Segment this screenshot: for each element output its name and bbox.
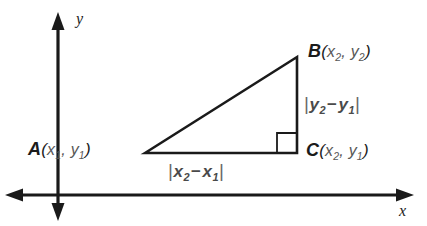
point-b-sub-x: 2	[335, 51, 341, 63]
y-axis-label: y	[76, 11, 83, 27]
y-axis-down-arrowhead-icon	[52, 203, 65, 221]
point-c-var-y: y	[349, 142, 357, 159]
point-a-sub-x: 1	[55, 149, 61, 161]
x-axis-label: x	[399, 203, 406, 219]
point-b-letter: B	[308, 41, 321, 61]
vertical-leg-length-label: |y2−y1|	[304, 94, 361, 113]
vertical-leg-var-2: y	[338, 95, 348, 114]
point-b-comma: ,	[341, 43, 350, 60]
point-a-close-paren: )	[85, 140, 91, 159]
horizontal-leg-length-label: |x2−x1|	[168, 161, 225, 180]
y-axis-up-arrowhead-icon	[52, 12, 65, 30]
vertical-leg-var-1: y	[309, 95, 319, 114]
point-label-a: A(x1, y1)	[28, 140, 91, 158]
right-angle-marker-icon	[277, 133, 297, 153]
point-c-close-paren: )	[363, 141, 369, 160]
point-label-b: B(x2, y2)	[308, 42, 371, 60]
vertical-leg-minus: −	[326, 95, 338, 114]
distance-formula-diagram: A(x1, y1) B(x2, y2) C(x2, y1) |y2−y1| |x…	[0, 0, 427, 226]
x-axis-right-arrowhead-icon	[396, 189, 414, 202]
point-a-sub-y: 1	[79, 149, 85, 161]
point-a-comma: ,	[61, 141, 70, 158]
vertical-leg-sub-2: 1	[348, 104, 355, 116]
point-c-comma: ,	[339, 142, 348, 159]
right-triangle-abc	[145, 57, 297, 153]
horizontal-leg-var-2: x	[202, 162, 212, 181]
horizontal-leg-bar-close: |	[219, 160, 224, 181]
horizontal-leg-sub-2: 1	[212, 171, 219, 183]
point-b-var-y: y	[351, 43, 359, 60]
point-a-letter: A	[28, 139, 41, 159]
point-b-close-paren: )	[365, 42, 371, 61]
point-b-sub-y: 2	[359, 51, 365, 63]
diagram-canvas	[0, 0, 427, 226]
horizontal-leg-var-1: x	[173, 162, 183, 181]
point-a-var-y: y	[71, 141, 79, 158]
x-axis-left-arrowhead-icon	[5, 189, 23, 202]
point-c-letter: C	[306, 140, 319, 160]
point-label-c: C(x2, y1)	[306, 141, 369, 159]
vertical-leg-bar-close: |	[355, 93, 360, 114]
vertical-leg-sub-1: 2	[319, 104, 326, 116]
horizontal-leg-sub-1: 2	[183, 171, 190, 183]
point-c-sub-y: 1	[357, 150, 363, 162]
point-c-sub-x: 2	[333, 150, 339, 162]
horizontal-leg-minus: −	[190, 162, 202, 181]
